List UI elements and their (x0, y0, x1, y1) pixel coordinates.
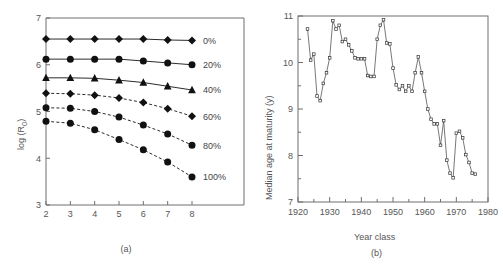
panel-a-data-point (42, 35, 50, 43)
panel-b-data-point (474, 173, 477, 176)
panel-a-data-point (115, 94, 123, 102)
panel-b-data-point (395, 84, 398, 87)
panel-a-data-point (189, 173, 196, 180)
panel-a-y-tick-label: 5 (36, 107, 41, 117)
panel-b-data-point (366, 74, 369, 77)
panel-a-data-point (188, 112, 196, 120)
panel-a-y-tick-label: 3 (36, 200, 41, 210)
panel-b-data-point (408, 84, 411, 87)
panel-a-data-point (43, 56, 50, 63)
panel-b-x-tick-label: 1940 (351, 207, 371, 217)
panel-a-data-point (164, 36, 172, 44)
panel-a-data-point (67, 120, 74, 127)
panel-b-data-point (404, 90, 407, 93)
panel-b-data-point (373, 75, 376, 78)
panel-a-data-point (139, 35, 147, 43)
panel-b-data-point (309, 59, 312, 62)
panel-b-data-point (382, 18, 385, 21)
panel-b-x-tick-label: 1980 (478, 207, 498, 217)
panel-b-data-point (325, 71, 328, 74)
panel-a-data-point (91, 91, 99, 99)
panel-b-data-point (322, 82, 325, 85)
panel-b-data-point (446, 159, 449, 162)
panel-b-data-point (471, 172, 474, 175)
panel-a-data-point (140, 146, 147, 153)
panel-b-data-point (319, 99, 322, 102)
panel-a-series-100pct (43, 118, 196, 181)
panel-b-data-point (439, 144, 442, 147)
panel-b-data-point (385, 42, 388, 45)
panel-a-data-point (116, 114, 123, 121)
figure-root: log (R0) 3456723456780%20%40%60%80%100% … (0, 0, 503, 278)
panel-a-data-point (164, 158, 171, 165)
panel-b-data-point (449, 172, 452, 175)
panel-a-series-40pct (42, 74, 196, 94)
panel-b-plot: 78910111920193019401950196019701980 (250, 0, 503, 232)
panel-b-data-point (338, 24, 341, 27)
panel-b-data-point (398, 88, 401, 91)
panel-b-y-tick-label: 9 (288, 104, 293, 114)
panel-a-y-tick-label: 4 (36, 154, 41, 164)
panel-b-data-point (306, 28, 309, 31)
panel-a-series-label: 80% (203, 141, 221, 151)
panel-b-data-point (370, 75, 373, 78)
panel-a-data-point (91, 108, 98, 115)
panel-b-x-tick-label: 1950 (383, 207, 403, 217)
panel-a-x-tick-label: 5 (116, 209, 121, 219)
panel-b-data-point (351, 50, 354, 53)
panel-b-data-point (430, 118, 433, 121)
panel-b-data-point (313, 53, 316, 56)
panel-a-data-point (66, 35, 74, 43)
panel-a-caption: (a) (0, 244, 252, 254)
panel-a-data-point (115, 35, 123, 43)
panel-a-y-tick-label: 7 (36, 13, 41, 23)
panel-a-x-tick-label: 6 (141, 209, 146, 219)
panel-b-data-point (379, 24, 382, 27)
panel-a-series-label: 100% (203, 172, 226, 182)
panel-a-y-tick-label: 6 (36, 60, 41, 70)
panel-a-data-point (139, 99, 147, 107)
panel-a-data-point (91, 126, 98, 133)
panel-a-data-point (140, 58, 147, 65)
panel-b-x-tick-label: 1960 (415, 207, 435, 217)
panel-a-data-point (164, 105, 172, 113)
panel-b-data-point (341, 40, 344, 43)
panel-a-data-point (164, 59, 171, 66)
panel-b-y-tick-label: 8 (288, 151, 293, 161)
panel-b-x-tick-label: 1970 (446, 207, 466, 217)
panel-a-series-label: 0% (203, 36, 216, 46)
panel-a-x-tick-label: 4 (92, 209, 97, 219)
panel-b: Median age at maturity (y) 7891011192019… (250, 0, 503, 278)
panel-b-x-axis-label: Year class (354, 232, 395, 242)
panel-a-data-point (188, 36, 196, 44)
panel-a-data-point (42, 89, 50, 97)
panel-b-data-point (316, 95, 319, 98)
panel-b-data-point (461, 137, 464, 140)
panel-b-data-point (468, 161, 471, 164)
panel-b-data-point (335, 28, 338, 31)
panel-b-data-point (414, 71, 417, 74)
panel-a-data-point (67, 105, 74, 112)
panel-a-x-tick-label: 7 (165, 209, 170, 219)
panel-a-data-point (43, 118, 50, 125)
panel-a-data-point (91, 56, 98, 63)
panel-b-frame (298, 16, 488, 202)
panel-b-x-tick-label: 1920 (288, 207, 308, 217)
panel-b-data-point (363, 57, 366, 60)
panel-b-data-point (332, 19, 335, 22)
panel-a-data-point (116, 136, 123, 143)
panel-b-data-point (452, 177, 455, 180)
panel-b-y-tick-label: 7 (288, 197, 293, 207)
panel-a-data-point (189, 142, 196, 149)
panel-b-data-point (433, 123, 436, 126)
panel-b-data-point (357, 57, 360, 60)
panel-b-caption: (b) (250, 248, 503, 258)
panel-b-data-point (411, 90, 414, 93)
panel-a-x-tick-label: 8 (189, 209, 194, 219)
panel-b-data-point (392, 67, 395, 70)
panel-b-data-point (442, 119, 445, 122)
panel-b-data-point (420, 71, 423, 74)
panel-a-x-tick-label: 3 (68, 209, 73, 219)
panel-a-series-0pct (42, 35, 196, 44)
panel-a-series-label: 40% (203, 85, 221, 95)
